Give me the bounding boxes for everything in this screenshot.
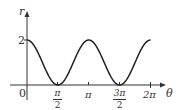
denominator: 2	[55, 100, 61, 110]
y-axis-arrow-icon	[25, 11, 30, 17]
origin-label: 0	[19, 88, 26, 99]
x-tick-label-pi-half: π 2	[53, 89, 62, 110]
x-axis-label: θ	[166, 88, 173, 99]
curve-r-theta	[27, 40, 151, 85]
numerator: 3π	[114, 88, 126, 98]
x-tick-label-2pi: 2π	[143, 90, 156, 100]
y-tick-label-2: 2	[18, 35, 25, 46]
x-tick-label-3pi-half: 3π 2	[113, 89, 126, 110]
denominator: 2	[117, 100, 123, 110]
y-axis-label: r	[19, 6, 24, 17]
x-tick-label-pi: π	[85, 90, 92, 100]
numerator: π	[55, 88, 61, 98]
